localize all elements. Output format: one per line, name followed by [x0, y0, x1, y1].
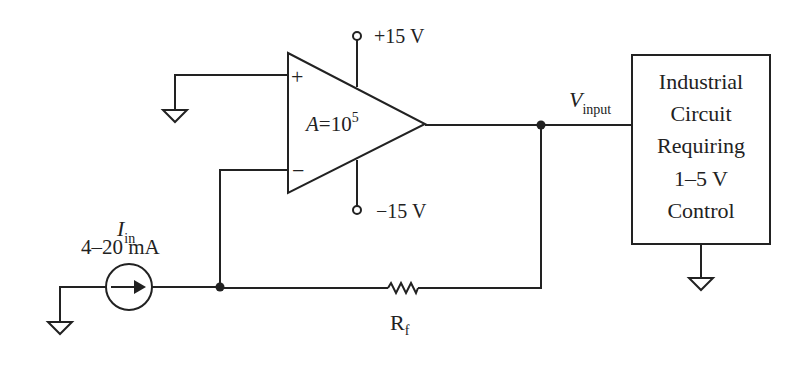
vneg-terminal	[353, 206, 361, 214]
ground-icon	[163, 110, 187, 122]
box-text: Industrial Circuit Requiring 1–5 V Contr…	[657, 69, 745, 223]
plus-input-label: +	[291, 64, 303, 89]
minus-input-label: −	[292, 158, 304, 183]
svg-text:Control: Control	[667, 198, 734, 223]
rf-label: Rf	[390, 310, 410, 338]
vpos-label: +15 V	[374, 25, 425, 47]
current-range-label: 4–20 mA	[81, 235, 161, 259]
vneg-label: −15 V	[376, 200, 427, 222]
svg-text:Circuit: Circuit	[670, 101, 731, 126]
gain-label: A=105	[304, 110, 359, 136]
vinput-label: Vinput	[569, 87, 611, 117]
resistor-rf	[388, 283, 418, 293]
vpos-terminal	[353, 32, 361, 40]
circuit-diagram: + − A=105 +15 V −15 V Vinput Rf Iin 4–20…	[0, 0, 812, 366]
svg-text:Industrial: Industrial	[659, 69, 743, 94]
ground-icon	[48, 322, 72, 334]
ground-icon	[689, 278, 713, 290]
svg-text:1–5 V: 1–5 V	[674, 166, 728, 191]
svg-text:Requiring: Requiring	[657, 133, 745, 158]
